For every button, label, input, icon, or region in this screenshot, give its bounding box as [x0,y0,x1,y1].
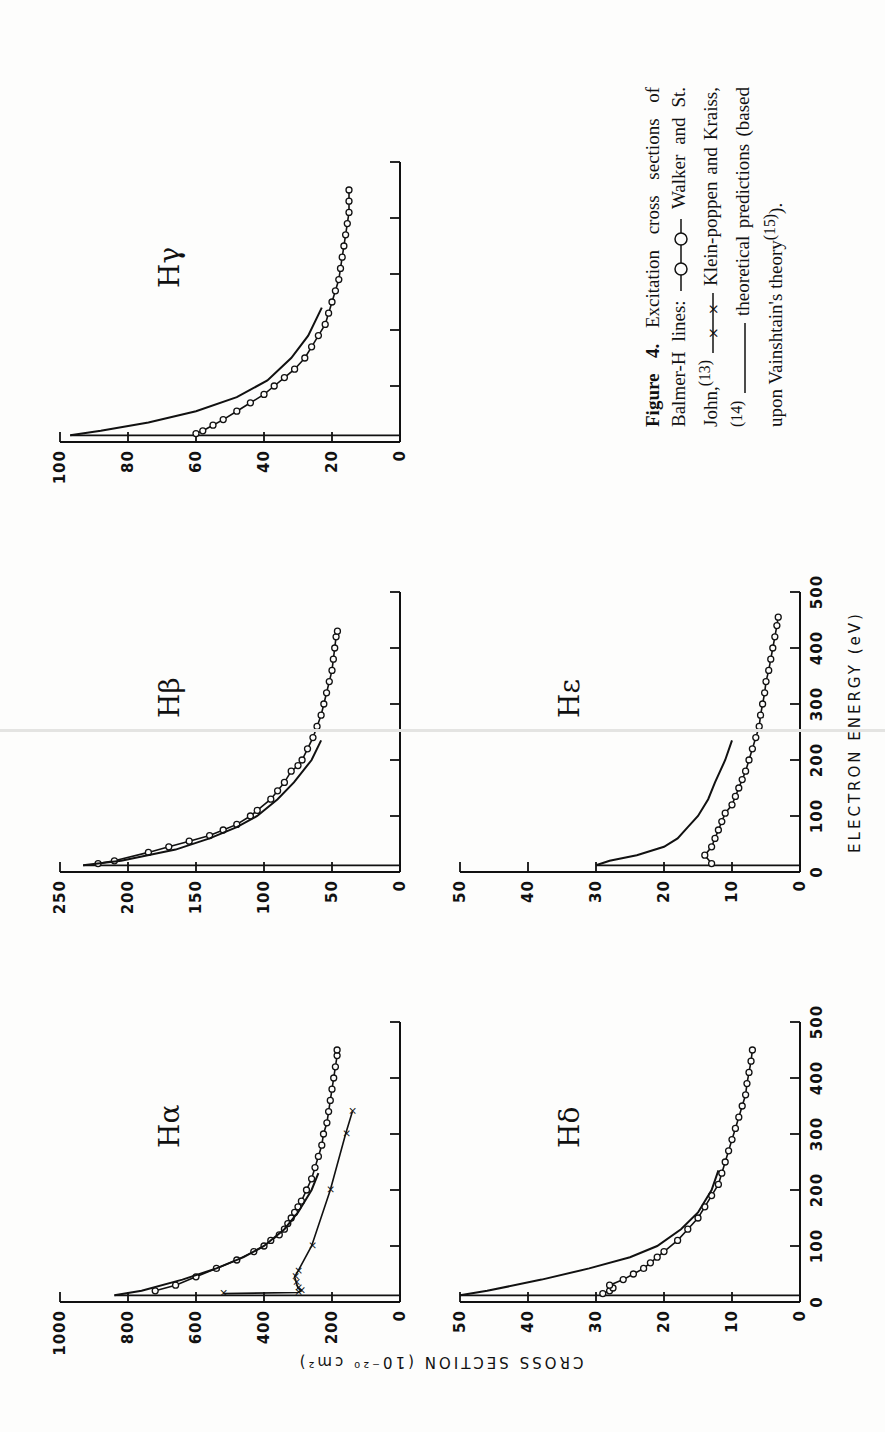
legend-kleinpoppen-label: Klein-poppen and Kraiss, [700,87,721,286]
h-epsilon-walker-point [712,835,718,841]
h-gamma-walker-point [271,383,277,389]
h-alpha-walker-point [309,1176,315,1182]
h-gamma-walker-point [329,299,335,305]
h-gamma-walker-point [309,344,315,350]
h-gamma-walker-point [210,422,216,428]
h-alpha-y-tick-label: 600 [187,1310,205,1344]
h-beta-walker-point [318,712,324,718]
h-delta-walker-point [719,1170,725,1176]
h-beta-walker-point [275,788,281,794]
h-gamma-walker-point [302,355,308,361]
h-delta-walker-point [749,1047,755,1053]
h-gamma-y-tick-label: 40 [255,450,273,473]
h-alpha-y-tick-label: 0 [391,1310,409,1321]
caption-label: Figure 4. [642,344,663,427]
h-alpha-y-tick-label: 200 [323,1310,341,1344]
h-beta-walker-point [254,807,260,813]
h-beta-label: Hβ [153,677,186,718]
h-alpha-y-tick-label: 800 [119,1310,137,1344]
h-delta-theory-line [460,1170,718,1295]
h-epsilon-x-tick-label: 200 [808,743,826,777]
svg-text:×: × [705,327,721,339]
h-epsilon-walker-point [753,735,759,741]
h-beta-theory-line [83,740,321,865]
h-alpha-walker-point [334,1047,340,1053]
h-beta-y-tick-label: 150 [187,880,205,914]
h-beta-walker-point [281,779,287,785]
h-epsilon-x-tick-label: 500 [808,575,826,609]
h-beta-walker-point [334,628,340,634]
h-alpha-walker-point [173,1282,179,1288]
h-gamma-walker-point [322,321,328,327]
h-gamma-walker-point [346,209,352,215]
h-gamma-y-tick-label: 80 [119,450,137,473]
h-delta-walker-point [732,1125,738,1131]
h-alpha-y-tick-label: 400 [255,1310,273,1344]
h-gamma-walker-point [338,265,344,271]
h-delta-walker-point [641,1265,647,1271]
h-beta-y-tick-label: 0 [391,880,409,891]
h-delta-x-tick-label: 0 [808,1296,826,1307]
h-epsilon-walker-point [722,810,728,816]
h-delta-x-tick-label: 400 [808,1061,826,1095]
h-gamma-walker-point [234,408,240,414]
h-alpha-label: Hα [153,1105,186,1148]
h-delta-walker-point [744,1081,750,1087]
h-delta-walker-line [603,1050,753,1294]
h-gamma-y-tick-label: 100 [51,450,69,484]
h-epsilon-y-tick-label: 20 [655,880,673,903]
h-delta-walker-point [675,1237,681,1243]
h-epsilon-walker-point [702,852,708,858]
h-epsilon-y-tick-label: 10 [723,880,741,903]
h-alpha-kleinpoppen-point: × [324,1185,337,1194]
h-alpha-walker-point [321,1131,327,1137]
h-epsilon-walker-point [774,623,780,629]
h-gamma-walker-point [200,428,206,434]
h-alpha-walker-point [315,1153,321,1159]
h-delta-label: Hδ [553,1107,586,1148]
h-gamma-theory-line [70,308,322,436]
h-epsilon-walker-line [705,617,778,863]
h-beta-walker-point [295,763,301,769]
h-delta-walker-point [726,1148,732,1154]
h-gamma-walker-point [343,232,349,238]
h-epsilon-walker-point [758,712,764,718]
h-beta-walker-point [330,656,336,662]
h-alpha-walker-point [324,1120,330,1126]
h-epsilon-y-tick-label: 40 [519,880,537,903]
ref-walker: (13) [696,360,713,386]
h-beta-y-tick-label: 250 [51,880,69,914]
figure-page: CROSS SECTION (10⁻²⁰ cm²) ELECTRON ENERG… [0,0,885,1432]
legend-walker-symbol [673,219,689,291]
h-alpha-walker-point [329,1086,335,1092]
h-gamma-walker-point [193,431,199,437]
h-delta-walker-point [685,1226,691,1232]
h-gamma-label: Hγ [153,247,186,288]
h-delta-walker-point [630,1271,636,1277]
h-alpha-kleinpoppen-line [223,1112,352,1294]
legend-theory-symbol [737,323,753,393]
h-gamma-walker-point [336,277,342,283]
h-gamma-y-tick-label: 20 [323,450,341,473]
h-beta-walker-point [166,844,172,850]
h-delta-walker-point [620,1277,626,1283]
h-beta-y-tick-label: 100 [255,880,273,914]
h-epsilon-walker-point [729,802,735,808]
h-gamma-walker-point [315,333,321,339]
h-epsilon-walker-point [743,768,749,774]
h-delta-walker-point [739,1103,745,1109]
h-gamma-walker-point [326,310,332,316]
scan-artifact [0,729,885,732]
h-gamma-walker-point [332,288,338,294]
h-epsilon-walker-point [709,844,715,850]
h-delta-y-tick-label: 0 [791,1310,809,1321]
h-alpha-kleinpoppen-point: × [306,1241,319,1250]
h-alpha-walker-point [319,1142,325,1148]
h-gamma-walker-point [281,375,287,381]
h-gamma-y-tick-label: 60 [187,450,205,473]
h-beta-walker-point [288,768,294,774]
h-beta-walker-point [299,757,305,763]
h-epsilon-y-tick-label: 30 [587,880,605,903]
ref-kleinpoppen: (14) [728,401,745,427]
h-delta-walker-point [654,1254,660,1260]
